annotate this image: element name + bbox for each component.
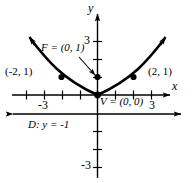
x-tick-label-3: 3 [149, 99, 155, 111]
right-point-label: (2, 1) [148, 66, 172, 77]
x-axis-label: x [172, 80, 177, 92]
focus-leader-line [79, 57, 95, 75]
y-tick-label-minus-3: -3 [81, 159, 91, 171]
parabola-left-arrowhead [30, 37, 36, 45]
point-right-latus [130, 74, 136, 80]
graph-canvas [0, 0, 194, 183]
y-tick-label-3: 3 [84, 34, 90, 46]
directrix-label: D: y = -1 [28, 119, 69, 130]
vertex-label: V = (0, 0) [100, 96, 143, 107]
focus-label: F = (0, 1) [41, 42, 84, 53]
left-point-label: (-2, 1) [5, 66, 33, 77]
x-tick-label-minus-3: -3 [38, 99, 48, 111]
parabola-figure: y x 3 -3 -3 3 F = (0, 1) V = (0, 0) (-2,… [0, 0, 194, 183]
parabola-right-arrowhead [160, 37, 166, 45]
point-focus [94, 74, 100, 80]
point-left-latus [58, 74, 64, 80]
y-axis-label: y [88, 2, 93, 14]
